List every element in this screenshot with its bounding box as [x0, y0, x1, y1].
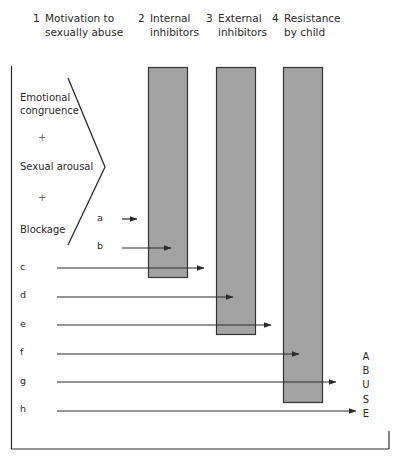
outcome-letter: S: [360, 393, 372, 407]
outcome-letter: E: [360, 407, 372, 421]
path-label-h: h: [20, 403, 26, 415]
path-label-d: d: [20, 289, 26, 301]
bar-resistance-by-child: [284, 68, 323, 403]
path-label-g: g: [20, 375, 26, 387]
path-label-b: b: [97, 240, 103, 252]
factor-emotional-congruence: Emotional congruence: [20, 91, 79, 117]
factor-blockage: Blockage: [20, 223, 66, 236]
plus-sign: +: [38, 132, 46, 143]
frame: [12, 66, 390, 449]
path-label-f: f: [20, 346, 23, 358]
outcome-letter: A: [360, 350, 372, 364]
path-label-c: c: [20, 261, 25, 273]
bar-external-inhibitors: [217, 68, 256, 335]
outcome-letter: U: [360, 378, 372, 392]
plus-sign: +: [38, 192, 46, 203]
path-label-a: a: [97, 212, 103, 224]
path-label-e: e: [20, 318, 26, 330]
outcome-letter: B: [360, 364, 372, 378]
outcome-abuse: A B U S E: [360, 350, 372, 421]
bar-internal-inhibitors: [149, 68, 188, 278]
factor-sexual-arousal: Sexual arousal: [20, 160, 93, 173]
